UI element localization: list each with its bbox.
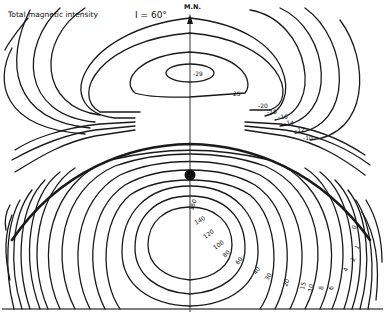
label-100: 100 <box>212 238 226 250</box>
contour-l3 <box>17 10 90 128</box>
contour--20 <box>89 33 283 112</box>
magnetic-intensity-diagram: Total magnetic intensity I = 60° M.N. <box>0 0 385 335</box>
label--10: -10 <box>303 134 313 141</box>
contour--10 <box>310 20 360 140</box>
label--14: -14 <box>284 119 294 126</box>
label-6: 6 <box>327 285 334 290</box>
label-140: 140 <box>193 214 207 226</box>
inclination-label: I = 60° <box>135 10 167 20</box>
label-10: 10 <box>306 283 314 292</box>
label--25: 25 <box>233 90 241 97</box>
negative-lobe-labels: -29 25 -20 -18 -16 -14 -12 -10 <box>193 70 313 141</box>
contour-2-l <box>5 205 10 230</box>
contour-l5 <box>5 18 28 50</box>
label--12: -12 <box>295 126 305 133</box>
figure-title: Total magnetic intensity <box>7 10 99 19</box>
converging-lines <box>12 122 370 175</box>
contour--25 <box>130 52 248 97</box>
label-20: 20 <box>281 278 290 288</box>
label-4: 4 <box>341 266 349 272</box>
label--18: -18 <box>267 108 277 115</box>
label-120: 120 <box>202 227 216 239</box>
dipole-source-dot <box>185 170 196 181</box>
label-160: 160 <box>187 198 198 211</box>
negative-lobe-contours <box>4 8 360 140</box>
label--29: -29 <box>193 70 203 77</box>
contour--12 <box>295 8 339 133</box>
contour--14 <box>280 8 321 126</box>
label-8: 8 <box>317 285 324 290</box>
conv-l2 <box>12 126 135 160</box>
north-label: M.N. <box>184 3 201 11</box>
